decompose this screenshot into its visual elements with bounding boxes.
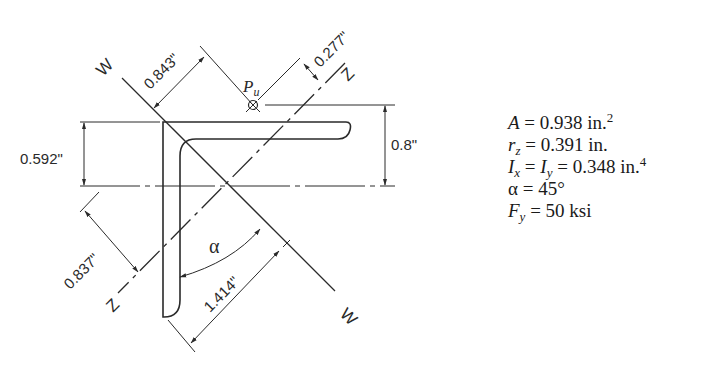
property-area: A = 0.938 in.2 xyxy=(508,112,646,134)
z-axis-label-bottom: Z xyxy=(102,295,123,316)
dim-1414-text: 1.414" xyxy=(200,273,242,315)
load-label: Pu xyxy=(242,77,259,99)
w-axis-label-top: W xyxy=(92,55,117,80)
alpha-arc xyxy=(180,229,260,277)
w-axis-label-bottom: W xyxy=(336,304,361,329)
property-rz: rz = 0.391 in. xyxy=(508,134,646,156)
dim-0837-text: 0.837" xyxy=(60,250,102,292)
z-axis-label-top: Z xyxy=(337,64,358,85)
dim-1414-ext2 xyxy=(283,240,290,247)
dim-0277-ext xyxy=(258,58,300,100)
dim-0837-ext xyxy=(80,192,99,212)
alpha-label: α xyxy=(209,235,220,257)
dim-0277-line xyxy=(304,64,318,80)
property-ix-iy: Ix = Iy = 0.348 in.4 xyxy=(508,156,646,178)
dim-0592-text: 0.592" xyxy=(20,150,63,167)
dim-0843-ext xyxy=(200,46,253,105)
dim-08-text: 0.8" xyxy=(391,136,417,153)
property-fy: Fy = 50 ksi xyxy=(508,200,646,222)
dim-1414-ext xyxy=(168,320,195,352)
property-alpha: α = 45° xyxy=(508,178,646,200)
section-properties: A = 0.938 in.2 rz = 0.391 in. Ix = Iy = … xyxy=(508,112,646,222)
angle-section-outline xyxy=(163,122,351,317)
dim-0277-text: 0.277" xyxy=(310,28,352,70)
w-axis-line xyxy=(122,78,335,291)
dim-1414-line xyxy=(191,251,279,343)
z-axis-line xyxy=(118,63,345,293)
